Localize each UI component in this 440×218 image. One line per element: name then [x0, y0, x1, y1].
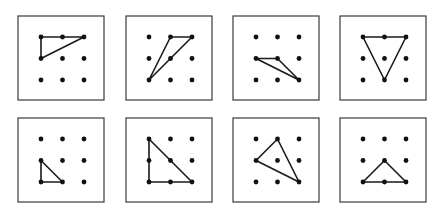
- grid-peg-dot: [275, 35, 280, 40]
- grid-peg-dot: [168, 78, 173, 83]
- grid-peg-dot: [168, 35, 173, 40]
- grid-peg-dot: [361, 137, 366, 142]
- grid-peg-dot: [404, 78, 409, 83]
- grid-peg-dot: [82, 158, 87, 163]
- grid-peg-dot: [297, 137, 302, 142]
- grid-peg-dot: [382, 158, 387, 163]
- grid-peg-dot: [404, 158, 409, 163]
- grid-peg-dot: [275, 56, 280, 61]
- grid-peg-dot: [39, 56, 44, 61]
- grid-peg-dot: [382, 78, 387, 83]
- grid-peg-dot: [147, 35, 152, 40]
- grid-peg-dot: [275, 180, 280, 185]
- grid-peg-dot: [168, 158, 173, 163]
- grid-peg-dot: [147, 137, 152, 142]
- grid-peg-dot: [382, 137, 387, 142]
- geoboard-panel-4: [340, 16, 426, 100]
- grid-peg-dot: [60, 180, 65, 185]
- grid-peg-dot: [254, 158, 259, 163]
- geoboard-triangles-figure: [0, 0, 440, 218]
- grid-peg-dot: [39, 78, 44, 83]
- grid-peg-dot: [297, 56, 302, 61]
- grid-peg-dot: [190, 158, 195, 163]
- geoboard-panel-1: [18, 16, 104, 100]
- grid-peg-dot: [82, 137, 87, 142]
- grid-peg-dot: [39, 137, 44, 142]
- grid-peg-dot: [254, 137, 259, 142]
- grid-peg-dot: [382, 56, 387, 61]
- grid-peg-dot: [168, 180, 173, 185]
- grid-peg-dot: [275, 78, 280, 83]
- geoboard-panel-2: [126, 16, 212, 100]
- grid-peg-dot: [190, 56, 195, 61]
- geoboard-panel-5: [18, 118, 104, 202]
- grid-peg-dot: [190, 35, 195, 40]
- grid-peg-dot: [60, 158, 65, 163]
- grid-peg-dot: [82, 180, 87, 185]
- grid-peg-dot: [404, 56, 409, 61]
- grid-peg-dot: [297, 35, 302, 40]
- grid-peg-dot: [168, 56, 173, 61]
- grid-peg-dot: [361, 35, 366, 40]
- grid-peg-dot: [82, 35, 87, 40]
- grid-peg-dot: [275, 158, 280, 163]
- grid-peg-dot: [382, 180, 387, 185]
- grid-peg-dot: [297, 158, 302, 163]
- grid-peg-dot: [190, 137, 195, 142]
- grid-peg-dot: [60, 56, 65, 61]
- grid-peg-dot: [190, 180, 195, 185]
- grid-peg-dot: [254, 78, 259, 83]
- grid-peg-dot: [254, 35, 259, 40]
- grid-peg-dot: [82, 56, 87, 61]
- grid-peg-dot: [361, 78, 366, 83]
- grid-peg-dot: [82, 78, 87, 83]
- grid-peg-dot: [297, 78, 302, 83]
- grid-peg-dot: [168, 137, 173, 142]
- geoboard-panel-7: [233, 118, 319, 202]
- grid-peg-dot: [404, 180, 409, 185]
- grid-peg-dot: [190, 78, 195, 83]
- grid-peg-dot: [147, 56, 152, 61]
- grid-peg-dot: [382, 35, 387, 40]
- grid-peg-dot: [404, 137, 409, 142]
- grid-peg-dot: [60, 137, 65, 142]
- grid-peg-dot: [361, 180, 366, 185]
- grid-peg-dot: [404, 35, 409, 40]
- grid-peg-dot: [39, 158, 44, 163]
- grid-peg-dot: [147, 78, 152, 83]
- grid-peg-dot: [39, 35, 44, 40]
- grid-peg-dot: [39, 180, 44, 185]
- grid-peg-dot: [254, 56, 259, 61]
- geoboard-panel-8: [340, 118, 426, 202]
- grid-peg-dot: [147, 180, 152, 185]
- grid-peg-dot: [254, 180, 259, 185]
- grid-peg-dot: [60, 78, 65, 83]
- grid-peg-dot: [147, 158, 152, 163]
- grid-peg-dot: [60, 35, 65, 40]
- geoboard-panel-6: [126, 118, 212, 202]
- grid-peg-dot: [361, 56, 366, 61]
- grid-peg-dot: [297, 180, 302, 185]
- geoboard-panel-3: [233, 16, 319, 100]
- grid-peg-dot: [275, 137, 280, 142]
- grid-peg-dot: [361, 158, 366, 163]
